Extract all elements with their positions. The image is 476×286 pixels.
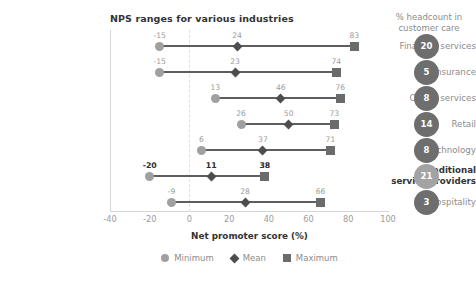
x-axis-tick-label: 100 — [372, 214, 404, 224]
headcount-badge: 5 — [414, 60, 439, 85]
data-value-label: 46 — [267, 83, 295, 92]
legend-item[interactable]: Minimum — [161, 253, 213, 263]
circle-icon — [161, 254, 169, 262]
headcount-badge: 14 — [414, 112, 439, 137]
data-value-label: 73 — [320, 109, 348, 118]
maximum-marker — [330, 120, 339, 129]
x-axis-tick-label: 80 — [332, 214, 364, 224]
maximum-marker — [350, 42, 359, 51]
data-value-label: 50 — [275, 109, 303, 118]
minimum-marker — [155, 68, 164, 77]
data-value-label: 74 — [322, 57, 350, 66]
data-value-label: -15 — [146, 31, 174, 40]
data-value-label: 11 — [197, 161, 225, 170]
headcount-badge: 8 — [414, 86, 439, 111]
mean-marker — [284, 119, 294, 129]
maximum-marker — [316, 198, 325, 207]
mean-marker — [206, 171, 216, 181]
maximum-marker — [260, 172, 269, 181]
mean-marker — [276, 93, 286, 103]
x-axis-tick-label: 40 — [253, 214, 285, 224]
data-value-label: 76 — [326, 83, 354, 92]
minimum-marker — [145, 172, 154, 181]
side-panel-title: % headcount in customer care — [385, 12, 473, 34]
y-axis-line — [110, 30, 111, 212]
maximum-marker — [332, 68, 341, 77]
data-value-label: -9 — [158, 187, 186, 196]
minimum-marker — [167, 198, 176, 207]
data-value-label: 38 — [251, 161, 279, 170]
data-value-label: -20 — [136, 161, 164, 170]
minimum-marker — [197, 146, 206, 155]
minimum-marker — [155, 42, 164, 51]
x-axis-tick-label: 20 — [213, 214, 245, 224]
headcount-badge: 21 — [414, 164, 439, 189]
data-value-label: 37 — [249, 135, 277, 144]
x-axis-tick-label: -20 — [134, 214, 166, 224]
headcount-badge: 20 — [414, 34, 439, 59]
legend-label: Maximum — [296, 253, 338, 263]
legend-item[interactable]: Maximum — [283, 253, 338, 263]
mean-marker — [258, 145, 268, 155]
data-value-label: 26 — [227, 109, 255, 118]
x-axis-tick-label: 60 — [293, 214, 325, 224]
data-value-label: 66 — [306, 187, 334, 196]
x-axis-line — [110, 211, 389, 212]
zero-gridline — [189, 30, 190, 212]
page-title: NPS ranges for various industries — [110, 13, 294, 24]
data-value-label: 23 — [221, 57, 249, 66]
data-value-label: 71 — [316, 135, 344, 144]
x-axis-tick-label: -40 — [94, 214, 126, 224]
data-value-label: 6 — [187, 135, 215, 144]
headcount-badge: 8 — [414, 138, 439, 163]
data-value-label: -15 — [146, 57, 174, 66]
maximum-marker — [336, 94, 345, 103]
legend-label: Mean — [243, 253, 266, 263]
maximum-marker — [326, 146, 335, 155]
range-connector-line — [160, 45, 355, 46]
mean-marker — [230, 67, 240, 77]
minimum-marker — [237, 120, 246, 129]
data-value-label: 28 — [231, 187, 259, 196]
legend-item[interactable]: Mean — [231, 253, 266, 263]
data-value-label: 13 — [201, 83, 229, 92]
chart-legend: MinimumMeanMaximum — [110, 253, 389, 263]
data-value-label: 24 — [223, 31, 251, 40]
legend-label: Minimum — [174, 253, 213, 263]
x-axis-tick-label: 0 — [173, 214, 205, 224]
minimum-marker — [211, 94, 220, 103]
diamond-icon — [229, 253, 239, 263]
x-axis-title: Net promoter score (%) — [110, 231, 389, 241]
mean-marker — [232, 41, 242, 51]
chart-canvas: NPS ranges for various industries % head… — [0, 0, 476, 286]
mean-marker — [240, 197, 250, 207]
range-connector-line — [160, 71, 337, 72]
square-icon — [283, 254, 291, 262]
data-value-label: 83 — [340, 31, 368, 40]
headcount-badge: 3 — [414, 190, 439, 215]
